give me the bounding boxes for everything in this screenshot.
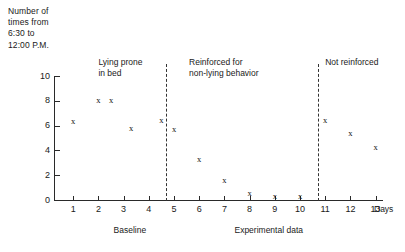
x-tick <box>350 196 351 201</box>
chart-figure: Number of times from 6:30 to 12:00 P.M. … <box>0 0 405 252</box>
x-tick-label: 7 <box>212 205 236 214</box>
phase-label: Lying prone in bed <box>98 57 142 79</box>
x-tick-label: 6 <box>187 205 211 214</box>
data-point: x <box>169 125 179 134</box>
x-tick-label: 8 <box>238 205 262 214</box>
data-point: x <box>295 192 305 201</box>
data-point: x <box>68 117 78 126</box>
plot-area: 0246810 12345678910111213 xxxxxxxxxxxxxx… <box>0 0 405 252</box>
x-tick-label: 5 <box>162 205 186 214</box>
x-tick <box>199 196 200 201</box>
y-tick-label: 10 <box>34 72 50 81</box>
x-tick <box>149 196 150 201</box>
y-tick-label: 2 <box>34 171 50 180</box>
phase-label: Not reinforced <box>325 57 378 68</box>
x-tick-label: 12 <box>338 205 362 214</box>
data-point: x <box>345 129 355 138</box>
y-tick-label: 6 <box>34 121 50 130</box>
x-tick <box>224 196 225 201</box>
data-point: x <box>126 124 136 133</box>
x-axis-label: Days <box>374 205 393 214</box>
phase-label: Reinforced for non-lying behavior <box>189 57 258 79</box>
section-caption: Experimental data <box>234 226 303 235</box>
data-point: x <box>156 116 166 125</box>
data-point: x <box>106 96 116 105</box>
y-tick-label: 4 <box>34 146 50 155</box>
data-point: x <box>93 96 103 105</box>
x-tick-label: 4 <box>137 205 161 214</box>
x-tick-label: 9 <box>263 205 287 214</box>
phase-divider <box>166 64 167 201</box>
section-caption: Baseline <box>114 226 147 235</box>
x-tick <box>98 196 99 201</box>
x-tick-label: 11 <box>313 205 337 214</box>
y-tick <box>55 200 60 201</box>
y-tick <box>55 126 60 127</box>
x-tick <box>124 196 125 201</box>
y-tick <box>55 150 60 151</box>
y-tick-label: 0 <box>34 196 50 205</box>
data-point: x <box>320 116 330 125</box>
phase-divider <box>318 64 319 201</box>
data-point: x <box>219 176 229 185</box>
y-tick-label: 8 <box>34 96 50 105</box>
x-tick <box>73 196 74 201</box>
data-point: x <box>245 189 255 198</box>
data-point: x <box>270 192 280 201</box>
x-tick <box>325 196 326 201</box>
x-tick-label: 2 <box>86 205 110 214</box>
y-tick <box>55 101 60 102</box>
x-tick <box>376 196 377 201</box>
x-tick <box>174 196 175 201</box>
y-axis-line <box>54 76 55 201</box>
y-tick <box>55 76 60 77</box>
x-tick-label: 1 <box>61 205 85 214</box>
x-tick-label: 10 <box>288 205 312 214</box>
data-point: x <box>371 143 381 152</box>
x-tick-label: 3 <box>112 205 136 214</box>
data-point: x <box>194 155 204 164</box>
x-axis-line <box>54 200 383 201</box>
y-tick <box>55 175 60 176</box>
